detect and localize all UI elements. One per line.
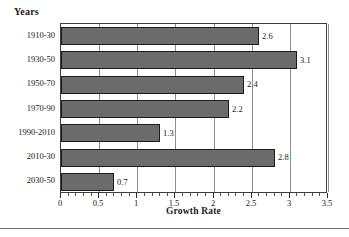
x-tick-minor xyxy=(91,193,92,196)
x-tick-minor xyxy=(281,193,282,196)
bar xyxy=(61,51,297,69)
x-tick-minor xyxy=(167,193,168,196)
bar-row: 2.2 xyxy=(61,100,326,118)
x-tick-minor xyxy=(319,193,320,196)
category-label: 2010-30 xyxy=(27,152,55,161)
bar xyxy=(61,149,275,167)
x-axis-title: Growth Rate xyxy=(60,206,327,216)
x-tick-minor xyxy=(190,193,191,196)
x-tick-minor xyxy=(121,193,122,196)
x-tick-minor xyxy=(228,193,229,196)
bar-value-label: 0.7 xyxy=(114,178,128,187)
category-axis-title: Years xyxy=(14,6,39,17)
x-tick-minor xyxy=(258,193,259,196)
x-tick-minor xyxy=(312,193,313,196)
bar-value-label: 2.8 xyxy=(275,153,289,162)
x-tick-minor xyxy=(144,193,145,196)
x-tick-minor xyxy=(243,193,244,196)
bar-value-label: 2.4 xyxy=(244,80,258,89)
plot-area: 2.63.12.42.21.32.80.7 xyxy=(60,23,327,193)
x-tick-minor xyxy=(182,193,183,196)
category-label: 1950-70 xyxy=(27,79,55,88)
x-tick-minor xyxy=(205,193,206,196)
x-tick-minor xyxy=(113,193,114,196)
x-tick-minor xyxy=(296,193,297,196)
bar-row: 3.1 xyxy=(61,51,326,69)
x-tick-minor xyxy=(266,193,267,196)
bar-chart-figure: Years 2.63.12.42.21.32.80.7 1910-301930-… xyxy=(0,0,349,237)
bar-row: 0.7 xyxy=(61,173,326,191)
bar-value-label: 1.3 xyxy=(160,129,174,138)
x-tick-minor xyxy=(159,193,160,196)
category-label: 1910-30 xyxy=(27,31,55,40)
bar xyxy=(61,76,244,94)
x-tick-minor xyxy=(235,193,236,196)
x-tick-minor xyxy=(304,193,305,196)
category-label: 2030-50 xyxy=(27,176,55,185)
x-tick-minor xyxy=(106,193,107,196)
x-tick-minor xyxy=(75,193,76,196)
bar-row: 2.8 xyxy=(61,149,326,167)
bar xyxy=(61,173,114,191)
bar xyxy=(61,124,160,142)
category-label: 1990-2010 xyxy=(18,128,55,137)
category-label: 1930-50 xyxy=(27,55,55,64)
bar-value-label: 2.6 xyxy=(259,32,273,41)
bar xyxy=(61,100,229,118)
x-tick-minor xyxy=(129,193,130,196)
x-tick-minor xyxy=(274,193,275,196)
x-tick-minor xyxy=(197,193,198,196)
gridline xyxy=(328,24,329,192)
bar-series: 2.63.12.42.21.32.80.7 xyxy=(61,24,326,192)
x-tick-minor xyxy=(68,193,69,196)
bottom-divider xyxy=(0,228,349,229)
category-label: 1970-90 xyxy=(27,104,55,113)
x-tick-minor xyxy=(83,193,84,196)
bar-value-label: 2.2 xyxy=(229,105,243,114)
x-tick-minor xyxy=(220,193,221,196)
bar-row: 2.4 xyxy=(61,76,326,94)
bar-value-label: 3.1 xyxy=(297,56,311,65)
bar xyxy=(61,27,259,45)
bar-row: 2.6 xyxy=(61,27,326,45)
x-tick-minor xyxy=(152,193,153,196)
bar-row: 1.3 xyxy=(61,124,326,142)
